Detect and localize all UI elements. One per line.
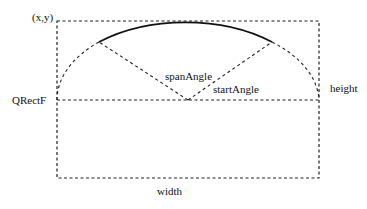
ellipse-dashed-left (57, 42, 99, 100)
rect-label: QRectF (12, 94, 46, 106)
arc-solid (99, 22, 272, 42)
arc-diagram: (x,y) QRectF height spanAngle startAngle… (0, 0, 367, 209)
start-angle-label: startAngle (213, 83, 259, 95)
width-label: width (157, 185, 183, 197)
height-label: height (330, 82, 358, 94)
span-angle-label: spanAngle (165, 70, 212, 82)
ellipse-dashed-right (272, 42, 319, 100)
origin-label: (x,y) (32, 11, 53, 24)
